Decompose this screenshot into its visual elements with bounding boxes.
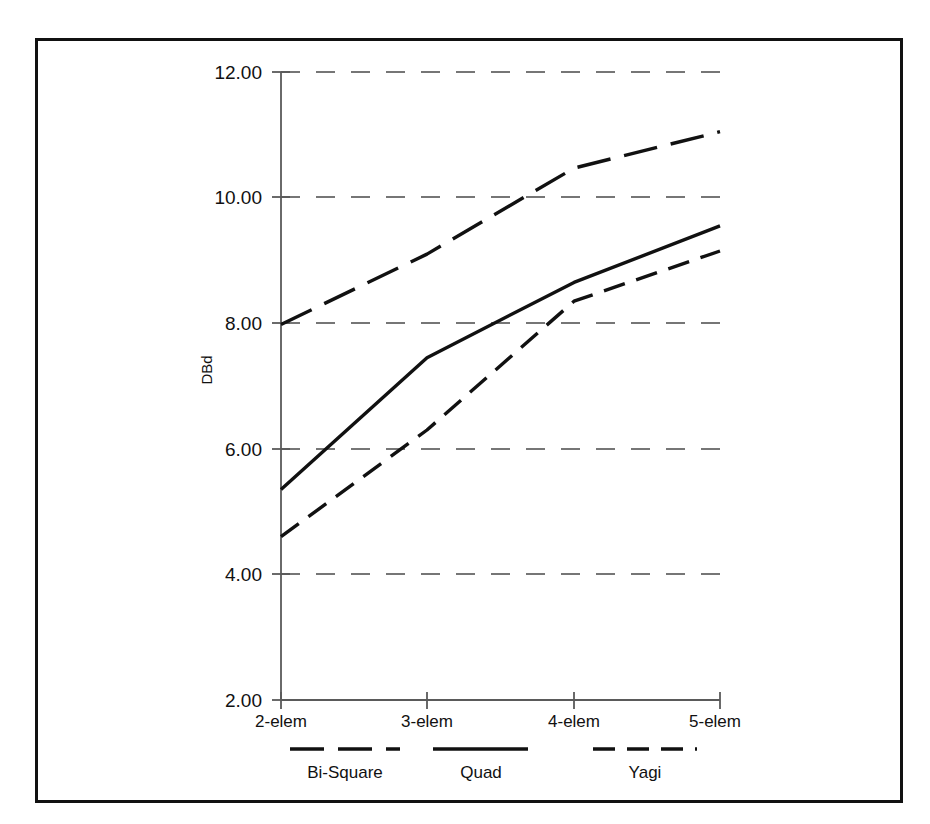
legend-label-yagi: Yagi <box>629 763 662 782</box>
x-tick-label-5elem: 5-elem <box>689 712 741 731</box>
legend-label-bi-square: Bi-Square <box>307 763 383 782</box>
y-tick-label-2: 2.00 <box>225 690 262 711</box>
y-axis-title: DBd <box>198 355 215 384</box>
chart-figure: 12.00 10.00 8.00 6.00 4.00 2.00 2-elem 3… <box>0 0 930 824</box>
y-tick-label-6: 6.00 <box>225 439 262 460</box>
series-quad <box>281 226 720 490</box>
legend-label-quad: Quad <box>460 763 502 782</box>
chart-legend: Bi-Square Quad Yagi <box>290 749 697 782</box>
x-tick-labels: 2-elem 3-elem 4-elem 5-elem <box>255 712 741 731</box>
x-tick-label-4elem: 4-elem <box>548 712 600 731</box>
series-line-quad <box>281 226 720 490</box>
chart-canvas: 12.00 10.00 8.00 6.00 4.00 2.00 2-elem 3… <box>0 0 930 824</box>
y-tick-label-12: 12.00 <box>214 62 262 83</box>
y-tick-label-8: 8.00 <box>225 313 262 334</box>
y-tick-label-4: 4.00 <box>225 564 262 585</box>
series-line-bi-square <box>281 132 720 325</box>
x-tick-label-3elem: 3-elem <box>401 712 453 731</box>
x-tick-label-2elem: 2-elem <box>255 712 307 731</box>
y-tick-label-10: 10.00 <box>214 187 262 208</box>
axis-lines <box>281 72 720 700</box>
series-bi-square <box>281 132 720 325</box>
y-tick-labels: 12.00 10.00 8.00 6.00 4.00 2.00 <box>214 62 262 711</box>
